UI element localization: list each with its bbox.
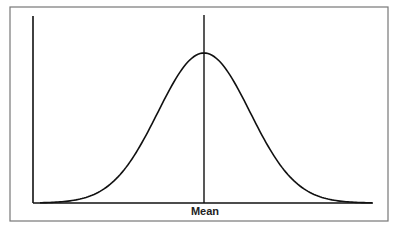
bell-curve (40, 53, 372, 203)
mean-label: Mean (180, 205, 230, 217)
bell-curve-diagram (0, 0, 399, 225)
frame (10, 7, 388, 221)
